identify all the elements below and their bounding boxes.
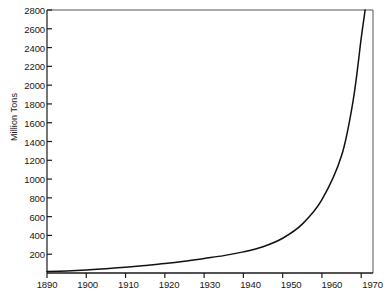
y-tick-marks bbox=[47, 10, 52, 254]
data-series-line bbox=[47, 10, 365, 272]
